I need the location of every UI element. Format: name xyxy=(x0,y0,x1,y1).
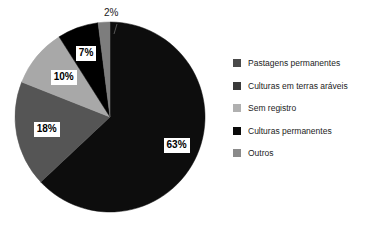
slice-value-label: 18% xyxy=(34,122,60,137)
legend-item-label: Sem registro xyxy=(248,104,296,113)
pie-plot-area: 63%18%10%7%2% xyxy=(0,0,225,225)
legend-item-label: Culturas em terras aráveis xyxy=(248,82,348,91)
legend-item[interactable]: Outros xyxy=(233,142,375,165)
slice-value-label: 7% xyxy=(76,46,96,61)
legend-swatch-icon xyxy=(233,59,241,67)
legend-swatch-icon xyxy=(233,82,241,90)
slice-value-label: 63% xyxy=(164,138,190,153)
legend-item[interactable]: Culturas permanentes xyxy=(233,120,375,143)
chart-legend: Pastagens permanentesCulturas em terras … xyxy=(233,52,375,165)
legend-swatch-icon xyxy=(233,149,241,157)
legend-item[interactable]: Culturas em terras aráveis xyxy=(233,75,375,98)
legend-item[interactable]: Sem registro xyxy=(233,97,375,120)
legend-swatch-icon xyxy=(233,127,241,135)
legend-item[interactable]: Pastagens permanentes xyxy=(233,52,375,75)
legend-item-label: Outros xyxy=(248,149,274,158)
pie-chart-figure: 63%18%10%7%2% Pastagens permanentesCultu… xyxy=(0,0,375,225)
legend-swatch-icon xyxy=(233,104,241,112)
slice-value-label: 2% xyxy=(104,8,118,18)
pie-slice-group xyxy=(15,22,205,212)
legend-item-label: Culturas permanentes xyxy=(248,127,332,136)
pie-svg xyxy=(0,0,225,225)
legend-item-label: Pastagens permanentes xyxy=(248,59,340,68)
slice-value-label: 10% xyxy=(51,70,77,85)
